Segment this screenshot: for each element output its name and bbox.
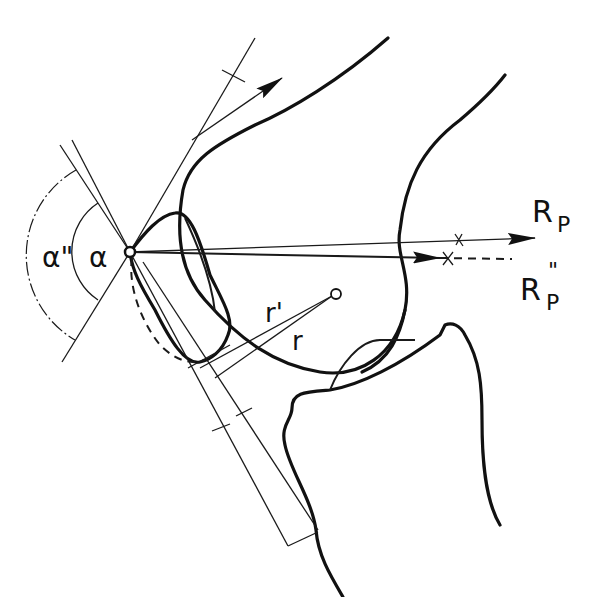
knee-diagram: α" α r' r R P R " P (0, 0, 603, 597)
quadriceps-line (130, 38, 255, 252)
patellar-ligament-line-1 (130, 252, 288, 546)
label-R_P-sub: P (557, 212, 570, 237)
label-R_P: R (532, 194, 553, 229)
patella-inner-line (185, 218, 215, 312)
radius-base-line (188, 345, 230, 368)
resultant-force-R_P-double-prime (130, 252, 440, 258)
tibia-outline (284, 324, 500, 597)
tangent-line-upper (60, 145, 130, 252)
quadriceps-tendon-vector (192, 78, 282, 140)
label-R_P-double-prime-sub: P (546, 290, 559, 315)
quad-tick (222, 70, 245, 82)
label-R_P-double-prime-sup: " (548, 258, 558, 283)
patella-apex-point (125, 247, 135, 257)
ligament-tick-1 (212, 424, 230, 431)
label-alpha-double-prime: α" (42, 241, 73, 274)
label-r-prime: r' (265, 298, 283, 328)
label-R_P-double-prime: R (520, 272, 541, 307)
patellar-ligament-end (288, 532, 318, 546)
patellar-ligament-line-2 (143, 262, 318, 530)
rotation-center (331, 289, 341, 299)
resultant-force-R_P (130, 238, 535, 252)
diagram-svg: α" α r' r R P R " P (0, 0, 603, 597)
label-r: r (292, 326, 303, 356)
R_P-double-prime-dashed-extension (440, 258, 512, 259)
label-alpha: α (89, 241, 107, 274)
tangent-line-upper-2 (72, 140, 130, 252)
